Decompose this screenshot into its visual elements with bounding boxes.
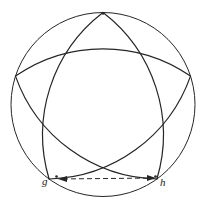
star-arc-bottom-right-to-left	[16, 76, 157, 179]
star-arc-top-to-bottom-right	[103, 13, 163, 180]
curved-star-arcs	[16, 13, 191, 180]
vertex-marker-top	[102, 12, 104, 14]
vertex-label-h: h	[160, 177, 166, 188]
vertex-label-g: g	[42, 176, 48, 187]
vertex-marker-h	[154, 175, 157, 178]
star-arc-left-to-right	[16, 49, 191, 76]
outer-circle	[11, 13, 195, 197]
figure-canvas: g h	[0, 0, 202, 201]
chord-arrowhead-left	[58, 176, 67, 182]
vertex-markers	[55, 12, 157, 178]
geometry-diagram-svg	[0, 0, 202, 201]
star-arc-bottom-left-to-top	[43, 13, 103, 180]
star-arc-right-to-bottom-left	[49, 76, 190, 179]
dashed-chord-gh	[63, 178, 151, 179]
vertex-marker-g	[55, 175, 58, 178]
